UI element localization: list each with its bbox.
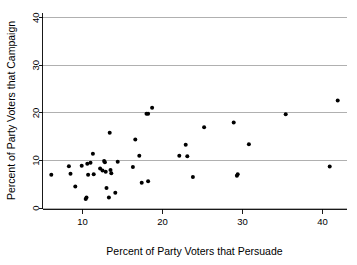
y-tick-label-30: 30: [30, 60, 41, 71]
data-point: [107, 196, 111, 200]
y-tick-label-10: 10: [30, 155, 41, 166]
x-tick-label-20: 20: [157, 216, 168, 227]
data-point: [247, 142, 251, 146]
data-point: [103, 160, 107, 164]
data-point: [116, 160, 120, 164]
x-tick-label-30: 30: [237, 216, 248, 227]
data-point: [104, 170, 108, 174]
data-point: [146, 112, 150, 116]
y-axis-title: Percent of Party Voters that Campaign: [5, 21, 17, 200]
data-point: [284, 112, 288, 116]
data-point: [49, 173, 53, 177]
data-point: [86, 173, 90, 177]
data-point: [92, 172, 96, 176]
data-point: [150, 106, 154, 110]
data-point: [85, 196, 89, 200]
data-point: [69, 172, 73, 176]
data-point: [191, 175, 195, 179]
data-point: [328, 165, 332, 169]
x-axis-title: Percent of Party Voters that Persuade: [106, 245, 282, 257]
data-point: [184, 143, 188, 147]
data-point: [140, 181, 144, 185]
data-point: [105, 186, 109, 190]
data-point: [232, 120, 236, 124]
data-point: [91, 152, 95, 156]
y-tick-label-0: 0: [30, 205, 41, 210]
data-point: [109, 171, 113, 175]
data-point: [336, 99, 340, 103]
y-tick-label-20: 20: [30, 108, 41, 119]
data-point: [80, 164, 84, 168]
x-tick-label-10: 10: [77, 216, 88, 227]
y-tick-label-40: 40: [30, 12, 41, 23]
data-point: [146, 179, 150, 183]
data-point: [202, 125, 206, 129]
scatter-plot-figure: 01020304010203040 Percent of Party Voter…: [0, 0, 357, 265]
tick-labels-group: 01020304010203040: [30, 12, 328, 227]
data-point: [113, 191, 117, 195]
data-point: [236, 172, 240, 176]
data-point: [67, 164, 71, 168]
plot-canvas: 01020304010203040 Percent of Party Voter…: [0, 0, 357, 265]
data-points-group: [49, 99, 339, 201]
data-point: [73, 185, 77, 189]
gridlines-group: [43, 18, 347, 208]
data-point: [137, 154, 141, 158]
data-point: [89, 161, 93, 165]
x-tick-label-40: 40: [317, 216, 328, 227]
data-point: [131, 165, 135, 169]
data-point: [185, 154, 189, 158]
data-point: [177, 154, 181, 158]
data-point: [108, 131, 112, 135]
data-point: [109, 168, 113, 172]
tickmarks-group: [39, 18, 323, 214]
axes-group: [43, 13, 347, 209]
data-point: [133, 138, 137, 142]
